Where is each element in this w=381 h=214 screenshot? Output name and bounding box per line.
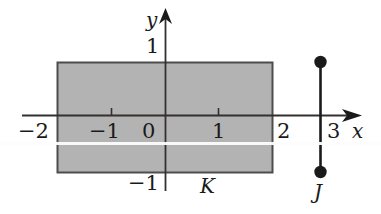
x-tick-label-2: 2 [277, 121, 290, 142]
x-tick-label-1: 1 [212, 121, 225, 142]
graph-svg [0, 0, 381, 214]
x-tick-label-3: 3 [327, 121, 340, 142]
x-tick-label-minus-2: −2 [18, 121, 49, 142]
y-axis-label: y [146, 10, 157, 30]
x-axis-label: x [352, 121, 363, 141]
y-tick-label-1: 1 [146, 36, 159, 57]
y-tick-label-minus-1: −1 [128, 173, 159, 194]
x-tick-label-zero: 0 [142, 121, 155, 142]
x-tick-label-minus-1: −1 [89, 121, 120, 142]
segment-j-label: J [314, 182, 322, 202]
figure-canvas: y x 1 −1 −2 −1 0 1 2 3 K J [0, 0, 381, 214]
scan-artifact-line [0, 142, 381, 145]
region-k-label: K [200, 176, 215, 196]
segment-j-endpoint-top [314, 56, 326, 68]
segment-j-endpoint-bottom [314, 166, 326, 178]
